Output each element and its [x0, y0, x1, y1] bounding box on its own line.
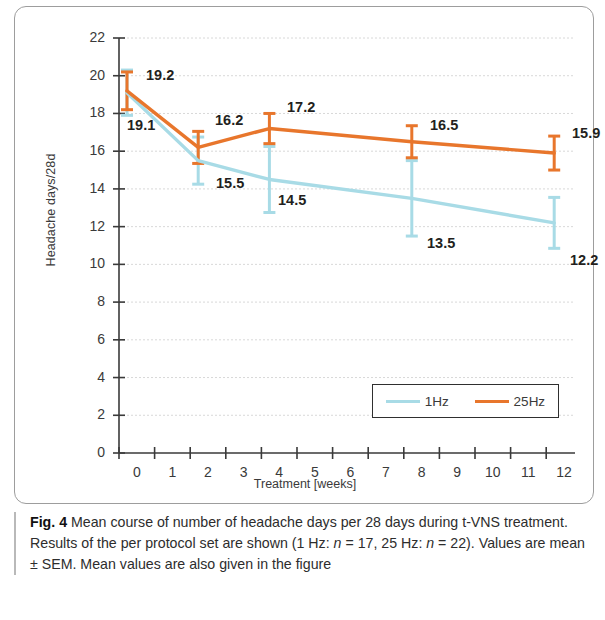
x-tick-label: 4: [267, 464, 291, 480]
y-tick-label: 22: [71, 29, 105, 45]
x-tick-label: 5: [303, 464, 327, 480]
data-point-label: 19.2: [146, 67, 174, 83]
data-point-label: 14.5: [278, 192, 306, 208]
chart-plot-area: Headache days/28d Treatment [weeks] 1Hz …: [15, 7, 595, 505]
data-point-label: 19.1: [127, 117, 155, 133]
legend-entry-25hz: 25Hz: [475, 394, 546, 409]
chart-legend[interactable]: 1Hz 25Hz: [372, 384, 559, 418]
caption-n-2: n: [426, 535, 434, 551]
y-tick-label: 2: [71, 406, 105, 422]
series-1hz: [121, 70, 560, 248]
legend-entry-1hz: 1Hz: [386, 394, 449, 409]
x-tick-label: 7: [374, 464, 398, 480]
y-tick-label: 8: [71, 293, 105, 309]
x-tick-label: 3: [232, 464, 256, 480]
x-tick-label: 1: [160, 464, 184, 480]
legend-label-25hz: 25Hz: [514, 394, 546, 409]
y-tick-label: 14: [71, 180, 105, 196]
legend-label-1hz: 1Hz: [425, 394, 449, 409]
data-point-label: 13.5: [427, 235, 455, 251]
y-tick-label: 6: [71, 331, 105, 347]
legend-swatch-1hz: [386, 400, 420, 403]
data-point-label: 12.2: [570, 252, 598, 268]
y-tick-label: 0: [71, 444, 105, 460]
y-tick-label: 18: [71, 104, 105, 120]
legend-swatch-25hz: [475, 400, 509, 403]
x-tick-label: 10: [481, 464, 505, 480]
x-tick-label: 6: [338, 464, 362, 480]
x-tick-label: 2: [196, 464, 220, 480]
series-line-25hz: [127, 91, 554, 153]
data-point-label: 15.5: [216, 175, 244, 191]
data-point-label: 15.9: [572, 125, 600, 141]
data-point-label: 16.2: [215, 112, 243, 128]
caption-n-1: n: [334, 535, 342, 551]
figure-number: Fig. 4: [30, 514, 67, 530]
y-tick-label: 4: [71, 369, 105, 385]
series-line-1hz: [127, 93, 554, 223]
data-point-label: 16.5: [430, 117, 458, 133]
y-tick-label: 12: [71, 218, 105, 234]
figure-caption: Fig. 4 Mean course of number of headache…: [14, 512, 594, 575]
x-tick-label: 9: [445, 464, 469, 480]
y-tick-label: 20: [71, 67, 105, 83]
figure-panel: Headache days/28d Treatment [weeks] 1Hz …: [14, 6, 594, 504]
y-tick-label: 16: [71, 142, 105, 158]
series-25hz: [121, 72, 560, 170]
y-tick-label: 10: [71, 255, 105, 271]
caption-segment-2: = 17, 25 Hz:: [342, 535, 427, 551]
data-point-label: 17.2: [287, 99, 315, 115]
x-tick-label: 11: [516, 464, 540, 480]
x-tick-label: 8: [410, 464, 434, 480]
x-tick-label: 12: [552, 464, 576, 480]
x-tick-label: 0: [125, 464, 149, 480]
